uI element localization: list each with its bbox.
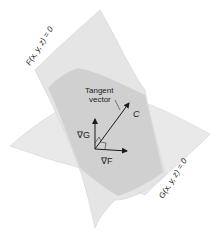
curve-label: C <box>133 109 140 119</box>
intersection-diagram: Tangent vector C ∇G ∇F F(x, y, z) = 0 G(… <box>0 0 224 241</box>
gradient-g-label: ∇G <box>76 130 90 140</box>
tangent-label-line2: vector <box>89 95 111 104</box>
tangent-label-line1: Tangent <box>85 86 114 95</box>
gradient-f-label: ∇F <box>100 156 113 166</box>
diagram-canvas: Tangent vector C ∇G ∇F F(x, y, z) = 0 G(… <box>0 0 224 241</box>
